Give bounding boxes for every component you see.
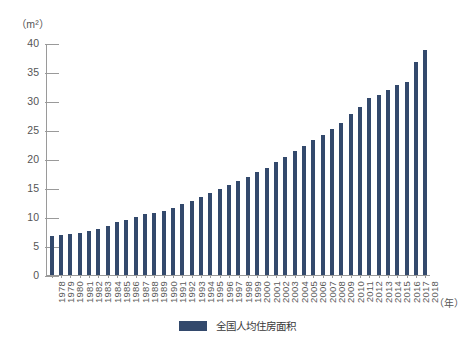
bar-slot xyxy=(337,44,346,275)
x-axis-tick xyxy=(210,275,211,278)
bar xyxy=(162,211,166,275)
bar xyxy=(68,234,72,275)
bar-slot xyxy=(178,44,187,275)
y-axis-tick-label: 5 xyxy=(33,240,39,252)
bar xyxy=(395,85,399,275)
x-axis-tick xyxy=(332,275,333,278)
x-axis-tick xyxy=(369,275,370,278)
bar-slot xyxy=(84,44,93,275)
bar xyxy=(78,233,82,275)
y-axis-tick-label: 0 xyxy=(33,269,39,281)
y-axis-tick-label: 15 xyxy=(27,182,39,194)
x-axis-tick xyxy=(98,275,99,278)
bar xyxy=(171,208,175,275)
bar-slot xyxy=(122,44,131,275)
bar-slot xyxy=(196,44,205,275)
bar xyxy=(386,90,390,275)
y-axis-tick-label: 40 xyxy=(27,37,39,49)
x-axis-tick xyxy=(80,275,81,278)
bar xyxy=(124,220,128,275)
bar xyxy=(321,135,325,275)
x-axis-tick xyxy=(341,275,342,278)
bar-slot xyxy=(411,44,420,275)
bar-slot xyxy=(346,44,355,275)
bar xyxy=(274,162,278,275)
bar-slot xyxy=(103,44,112,275)
bar-slot xyxy=(290,44,299,275)
x-axis-tick xyxy=(52,275,53,278)
bar-slot xyxy=(131,44,140,275)
bar xyxy=(115,222,119,275)
bar xyxy=(377,95,381,275)
bar xyxy=(358,107,362,275)
x-axis-tick xyxy=(108,275,109,278)
y-axis-tick-label: 10 xyxy=(27,211,39,223)
bar-slot xyxy=(327,44,336,275)
x-axis-tick xyxy=(397,275,398,278)
legend-label: 全国人均住房面积 xyxy=(216,318,296,333)
bar xyxy=(283,157,287,275)
bar-slot xyxy=(56,44,65,275)
bar xyxy=(50,236,54,275)
y-axis-tick-label: 25 xyxy=(27,124,39,136)
x-axis-tick xyxy=(220,275,221,278)
bar-slot xyxy=(393,44,402,275)
bar-slot xyxy=(75,44,84,275)
bar xyxy=(218,189,222,275)
bar-slot xyxy=(140,44,149,275)
x-axis-tick xyxy=(145,275,146,278)
bar-slot xyxy=(365,44,374,275)
bar-slot xyxy=(66,44,75,275)
bar-slot xyxy=(112,44,121,275)
bar xyxy=(405,82,409,275)
bar xyxy=(311,140,315,275)
bar xyxy=(236,181,240,275)
x-axis-title: （年） xyxy=(434,295,464,310)
bar-slot xyxy=(234,44,243,275)
bar-slot xyxy=(159,44,168,275)
x-axis-tick xyxy=(379,275,380,278)
x-axis-tick xyxy=(126,275,127,278)
x-axis-tick xyxy=(425,275,426,278)
x-axis-tick xyxy=(360,275,361,278)
x-axis-tick xyxy=(136,275,137,278)
bar-slot xyxy=(150,44,159,275)
x-axis-tick xyxy=(267,275,268,278)
x-axis-tick xyxy=(192,275,193,278)
x-axis-tick xyxy=(229,275,230,278)
bar xyxy=(367,98,371,275)
legend-swatch-icon xyxy=(179,321,207,331)
x-axis-tick xyxy=(304,275,305,278)
bar-slot xyxy=(299,44,308,275)
bar-slot xyxy=(47,44,56,275)
bar xyxy=(255,172,259,275)
bar xyxy=(134,217,138,275)
bar-slot xyxy=(215,44,224,275)
bar-slot xyxy=(206,44,215,275)
bar-slot xyxy=(374,44,383,275)
x-axis-tick xyxy=(201,275,202,278)
bar-slot xyxy=(224,44,233,275)
bar-slot xyxy=(421,44,430,275)
bar-slot xyxy=(402,44,411,275)
bar xyxy=(246,177,250,275)
x-axis-tick xyxy=(248,275,249,278)
bar-slot xyxy=(243,44,252,275)
x-axis-tick xyxy=(313,275,314,278)
x-axis-tick xyxy=(173,275,174,278)
y-axis-unit-label: （m²） xyxy=(16,16,49,31)
bar xyxy=(180,204,184,275)
bar-slot xyxy=(355,44,364,275)
chart-legend: 全国人均住房面积 xyxy=(0,318,474,333)
x-axis-tick xyxy=(351,275,352,278)
bar xyxy=(208,193,212,275)
bar xyxy=(423,50,427,275)
bar-slot xyxy=(309,44,318,275)
x-axis-tick xyxy=(323,275,324,278)
bar xyxy=(339,123,343,275)
bar-slot xyxy=(271,44,280,275)
bar xyxy=(59,235,63,275)
bar-slot xyxy=(262,44,271,275)
bar xyxy=(414,62,418,275)
x-axis-tick xyxy=(285,275,286,278)
